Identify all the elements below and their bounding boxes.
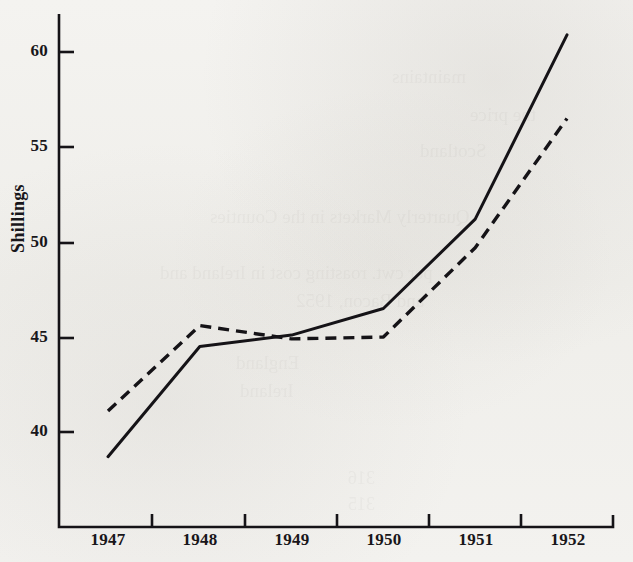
y-tick-label-40: 40 xyxy=(14,421,48,441)
line-chart xyxy=(0,0,633,562)
y-tick-label-55: 55 xyxy=(14,136,48,156)
y-axis-ticks xyxy=(59,52,74,432)
y-tick-label-60: 60 xyxy=(14,41,48,61)
series-dashed-line xyxy=(108,119,567,412)
y-tick-label-45: 45 xyxy=(14,327,48,347)
x-tick-label-1947: 1947 xyxy=(62,530,154,550)
x-tick-label-1948: 1948 xyxy=(154,530,246,550)
y-tick-label-50: 50 xyxy=(14,232,48,252)
series-solid-line xyxy=(108,35,567,457)
y-axis-title: Shillings xyxy=(8,171,29,267)
x-axis-ticks xyxy=(152,514,521,527)
x-tick-label-1952: 1952 xyxy=(522,530,614,550)
x-tick-label-1951: 1951 xyxy=(430,530,522,550)
x-tick-label-1949: 1949 xyxy=(246,530,338,550)
x-tick-label-1950: 1950 xyxy=(338,530,430,550)
